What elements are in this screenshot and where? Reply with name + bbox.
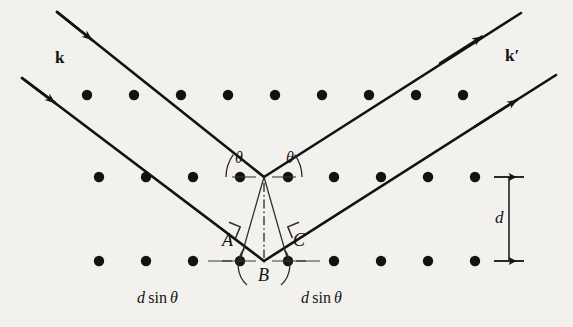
incident-arrow-upper <box>57 12 92 40</box>
bragg-diffraction-figure: k k′ θ θ A B C d d sin θ d sin θ <box>0 0 573 327</box>
construction-line-vertex-a <box>240 177 264 261</box>
path-diff-left-sin: sin <box>148 289 167 306</box>
angle-arc-theta-left <box>226 155 233 177</box>
scattered-arrow-lower <box>475 100 517 127</box>
path-diff-left-theta: θ <box>170 289 178 306</box>
scattered-wavevector-label: k′ <box>505 47 519 64</box>
incident-arrow-lower <box>22 78 55 103</box>
scattered-arrow-upper <box>440 37 482 64</box>
path-diff-right-d: d <box>301 289 309 306</box>
point-c-label: C <box>293 231 305 249</box>
point-a-label: A <box>222 231 233 249</box>
lattice-row-top <box>82 90 468 100</box>
construction-line-vertex-c <box>264 177 288 261</box>
lattice-dots <box>82 90 480 266</box>
angle-label-left: θ <box>235 150 243 166</box>
point-b-label: B <box>258 266 269 284</box>
interplanar-spacing-label: d <box>495 209 504 226</box>
angle-label-right: θ <box>286 150 294 166</box>
path-diff-right-theta: θ <box>334 289 342 306</box>
path-diff-left-d: d <box>137 289 145 306</box>
incident-wavevector-label: k <box>55 49 64 66</box>
path-difference-label-right: d sin θ <box>301 290 342 306</box>
path-difference-label-left: d sin θ <box>137 290 178 306</box>
path-diff-right-sin: sin <box>312 289 331 306</box>
